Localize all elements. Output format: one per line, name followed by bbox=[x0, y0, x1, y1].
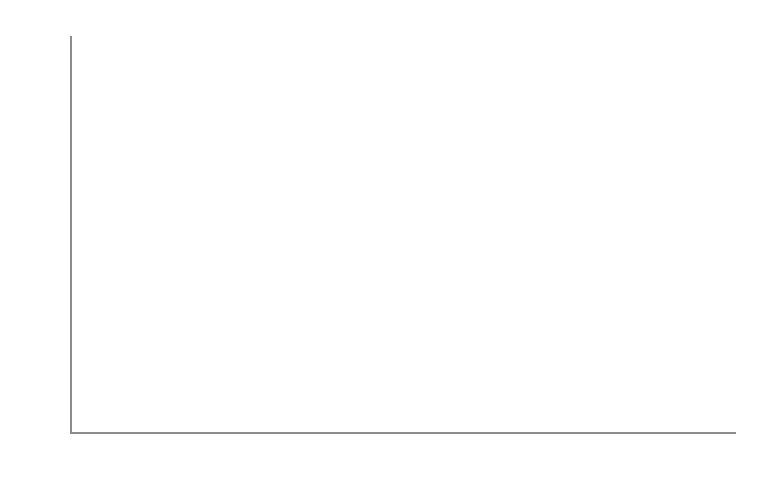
bar-chart bbox=[0, 0, 759, 492]
x-axis-line bbox=[70, 432, 736, 434]
y-axis-line bbox=[70, 36, 72, 433]
